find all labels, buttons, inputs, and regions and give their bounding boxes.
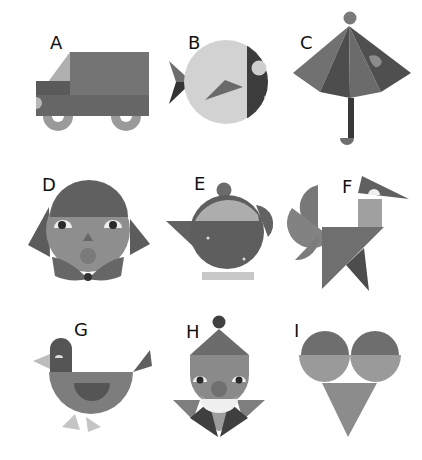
hen-foot-right [86, 417, 101, 432]
girl-pigtail-right [130, 219, 150, 255]
truck-windshield [48, 52, 70, 82]
girl-hair [50, 180, 128, 217]
umbrella-knob [344, 12, 357, 25]
truck-chassis [36, 95, 149, 116]
figure-d-girl-face: D [28, 174, 150, 281]
bird-head [358, 176, 409, 199]
figure-b-fish: B [169, 32, 272, 128]
figure-a-truck: A [36, 32, 149, 131]
figure-i-ice-cream: I [294, 320, 401, 437]
label-f: F [342, 176, 352, 197]
hen-foot-left [62, 414, 80, 430]
ice-cream-cone [322, 383, 377, 437]
label-h: H [186, 321, 200, 342]
truck-cargo-box [70, 52, 149, 95]
girl-mouth [80, 248, 96, 264]
label-g: G [74, 319, 88, 340]
girl-bow [84, 273, 92, 281]
clown-hat-pompom [213, 316, 226, 329]
bird-neck [358, 199, 382, 227]
ice-cream-scoop-right-bottom [350, 355, 401, 382]
label-c: C [300, 32, 313, 53]
ice-cream-scoop-left-bottom [299, 355, 350, 382]
figure-c-umbrella: C [293, 12, 411, 146]
teapot-highlight-1 [207, 237, 210, 240]
ice-cream-scoop-left-top [301, 331, 349, 355]
figure-f-bird: F [287, 176, 409, 291]
hen-head [50, 338, 72, 372]
ice-cream-scoop-right-top [351, 331, 399, 355]
truck-cab [36, 81, 70, 97]
figure-grid: A B C D [0, 0, 422, 460]
hen-beak [33, 354, 50, 369]
hen-tail [133, 350, 152, 372]
label-e: E [194, 173, 205, 194]
fish-eye [252, 61, 267, 76]
bird-body [322, 227, 384, 289]
clown-pupil-left [197, 377, 204, 384]
label-b: B [188, 32, 200, 53]
teapot-highlight-2 [243, 258, 246, 261]
girl-pupil-left [58, 221, 66, 229]
fish-head [247, 38, 272, 128]
figure-g-hen: G [33, 319, 152, 432]
fish-mouth [264, 95, 270, 101]
label-d: D [42, 174, 56, 195]
umbrella-handle [348, 98, 354, 138]
label-a: A [50, 32, 63, 53]
teapot-base [202, 272, 254, 280]
figure-e-teapot: E [166, 173, 273, 280]
clown-nose [211, 381, 227, 397]
label-i: I [294, 320, 299, 341]
girl-pupil-right [109, 221, 117, 229]
umbrella-hook [340, 138, 354, 145]
figure-h-clown: H [173, 316, 265, 438]
clown-pupil-right [236, 377, 243, 384]
